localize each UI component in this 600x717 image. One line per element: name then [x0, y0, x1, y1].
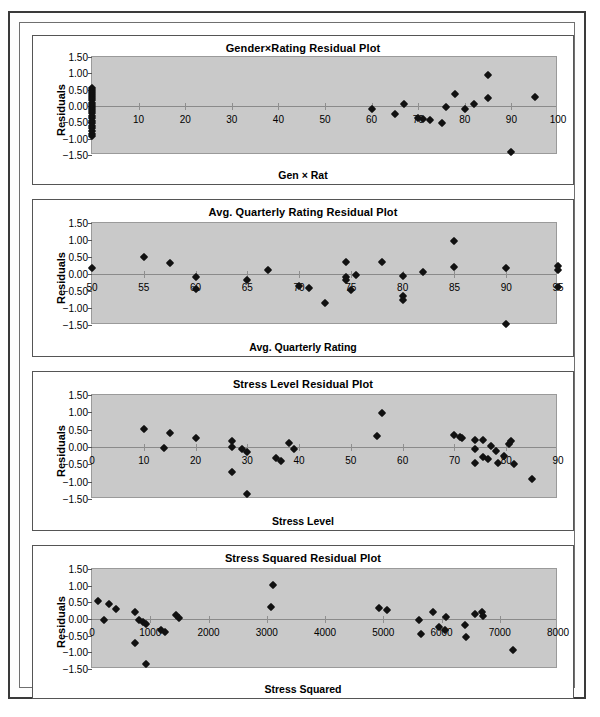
data-point-marker: [140, 253, 148, 261]
x-tick-mark: [351, 444, 352, 451]
x-tick-label: 50: [345, 455, 356, 466]
x-tick-label: 0: [89, 627, 95, 638]
scanned-page-inner-border: Gender×Rating Residual Plot Residuals −1…: [19, 22, 575, 688]
scanned-page-frame: Gender×Rating Residual Plot Residuals −1…: [8, 11, 586, 699]
data-point-marker: [450, 237, 458, 245]
data-point-marker: [267, 603, 275, 611]
x-axis-label: Avg. Quarterly Rating: [33, 341, 573, 353]
y-tick-label: −0.50: [63, 630, 88, 641]
y-tick-label: 1.50: [69, 390, 88, 401]
data-point-marker: [415, 616, 423, 624]
y-tick-label: −0.50: [63, 286, 88, 297]
plot-area: −1.50−1.00−0.500.000.501.001.50505560657…: [91, 222, 557, 324]
data-point-marker: [341, 258, 349, 266]
x-tick-mark: [325, 103, 326, 110]
x-tick-label: 40: [294, 455, 305, 466]
data-point-marker: [462, 632, 470, 640]
x-tick-label: 100: [550, 114, 567, 125]
data-point-marker: [131, 639, 139, 647]
y-tick-mark: [88, 412, 92, 413]
chart-title: Stress Squared Residual Plot: [33, 552, 573, 564]
x-tick-label: 4000: [314, 627, 336, 638]
y-tick-label: 1.50: [69, 218, 88, 229]
data-point-marker: [264, 266, 272, 274]
data-point-marker: [398, 271, 406, 279]
data-point-marker: [471, 458, 479, 466]
y-tick-label: 0.00: [69, 101, 88, 112]
data-point-marker: [352, 271, 360, 279]
x-tick-label: 10: [133, 114, 144, 125]
plot-area: −1.50−1.00−0.500.000.501.001.50010002000…: [91, 568, 557, 668]
y-tick-mark: [88, 240, 92, 241]
y-tick-label: 0.50: [69, 252, 88, 263]
chart-title: Gender×Rating Residual Plot: [33, 42, 573, 54]
data-point-marker: [112, 604, 120, 612]
y-tick-label: −0.50: [63, 459, 88, 470]
x-tick-label: 80: [459, 114, 470, 125]
y-tick-label: 1.00: [69, 407, 88, 418]
y-tick-mark: [88, 569, 92, 570]
y-tick-mark: [88, 155, 92, 156]
data-point-marker: [391, 110, 399, 118]
zero-axis-line: [92, 106, 556, 107]
data-point-marker: [228, 443, 236, 451]
data-point-marker: [160, 443, 168, 451]
y-tick-label: 0.00: [69, 442, 88, 453]
x-tick-label: 3000: [256, 627, 278, 638]
y-tick-label: −1.50: [63, 150, 88, 161]
y-tick-mark: [88, 73, 92, 74]
chart-panel-stress-squared: Stress Squared Residual Plot Residuals −…: [32, 545, 574, 699]
y-tick-mark: [88, 602, 92, 603]
y-tick-mark: [88, 586, 92, 587]
x-tick-mark: [144, 271, 145, 278]
y-tick-label: −1.50: [63, 320, 88, 331]
x-axis-label: Gen × Rat: [33, 169, 573, 181]
data-point-marker: [130, 607, 138, 615]
x-tick-mark: [150, 616, 151, 623]
x-tick-mark: [511, 103, 512, 110]
y-tick-label: 0.50: [69, 597, 88, 608]
y-tick-mark: [88, 482, 92, 483]
x-tick-label: 90: [552, 455, 563, 466]
y-tick-mark: [88, 652, 92, 653]
x-tick-mark: [500, 616, 501, 623]
y-tick-mark: [88, 57, 92, 58]
data-point-marker: [305, 283, 313, 291]
x-tick-mark: [299, 444, 300, 451]
data-point-marker: [426, 115, 434, 123]
chart-panel-gender-rating: Gender×Rating Residual Plot Residuals −1…: [32, 35, 574, 185]
y-tick-label: −0.50: [63, 117, 88, 128]
data-point-marker: [228, 468, 236, 476]
data-point-marker: [451, 90, 459, 98]
x-tick-label: 20: [190, 455, 201, 466]
y-tick-label: 1.50: [69, 52, 88, 63]
x-tick-mark: [299, 271, 300, 278]
x-tick-label: 30: [242, 455, 253, 466]
x-tick-mark: [418, 103, 419, 110]
y-tick-label: 0.00: [69, 614, 88, 625]
y-tick-mark: [88, 430, 92, 431]
x-tick-mark: [403, 444, 404, 451]
x-axis-label: Stress Level: [33, 515, 573, 527]
data-point-marker: [191, 433, 199, 441]
data-point-marker: [290, 444, 298, 452]
x-tick-mark: [209, 616, 210, 623]
x-tick-mark: [383, 616, 384, 623]
x-tick-label: 0: [89, 455, 95, 466]
chart-panel-avg-quarterly-rating: Avg. Quarterly Rating Residual Plot Resi…: [32, 199, 574, 357]
x-tick-label: 10: [138, 455, 149, 466]
data-point-marker: [510, 460, 518, 468]
y-tick-label: 0.00: [69, 269, 88, 280]
y-tick-mark: [88, 325, 92, 326]
data-point-marker: [437, 119, 445, 127]
x-tick-label: 2000: [197, 627, 219, 638]
data-point-marker: [277, 457, 285, 465]
y-tick-mark: [88, 669, 92, 670]
plot-area: −1.50−1.00−0.500.000.501.001.50010203040…: [91, 394, 557, 498]
x-tick-mark: [454, 444, 455, 451]
x-tick-label: 8000: [547, 627, 569, 638]
y-axis-label: Residuals: [55, 84, 67, 136]
x-tick-label: 50: [86, 282, 97, 293]
y-tick-label: 0.50: [69, 424, 88, 435]
x-tick-mark: [232, 103, 233, 110]
